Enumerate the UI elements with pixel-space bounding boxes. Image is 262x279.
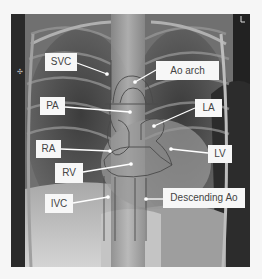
lv-outline — [156, 141, 172, 165]
ao-arch-pointer — [135, 70, 156, 82]
label-pa: PA — [40, 97, 65, 115]
label-rv: RV — [55, 163, 83, 183]
label-lv: LV — [208, 145, 232, 163]
la-outline — [141, 119, 164, 141]
label-ivc: IVC — [45, 194, 73, 213]
ao-arch-inner-outline — [120, 88, 146, 103]
rv-outline — [104, 147, 172, 165]
side-marker-icon: ✣ — [17, 68, 23, 76]
rv-pointer — [83, 164, 131, 172]
ra-pointer — [61, 149, 110, 151]
svc-pointer — [77, 63, 107, 74]
label-la: LA — [195, 99, 222, 117]
label-ao-arch: Ao arch — [156, 61, 219, 80]
la-pointer — [154, 108, 195, 126]
pa-pointer — [65, 107, 130, 112]
rv-lower-outline — [104, 160, 172, 177]
ivc-pointer — [73, 197, 108, 203]
ao-arch-outline — [113, 76, 153, 103]
pa-outline — [110, 104, 116, 132]
lv-pointer — [171, 149, 208, 153]
label-svc: SVC — [45, 53, 77, 71]
label-descending-ao: Descending Ao — [163, 188, 245, 208]
corner-marker — [241, 16, 245, 22]
label-ra: RA — [36, 140, 61, 158]
